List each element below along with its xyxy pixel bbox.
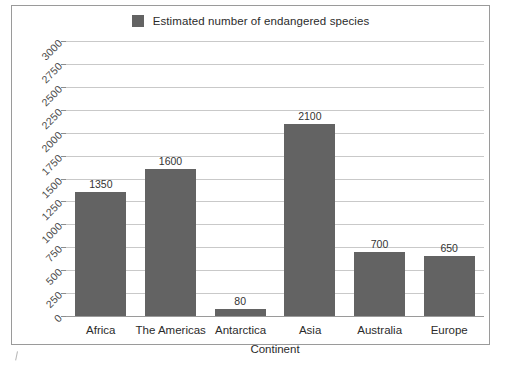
x-axis-category-label: The Americas <box>136 324 206 336</box>
bar-slot: 2100 <box>275 41 345 316</box>
bar-value-label: 2100 <box>298 110 321 122</box>
legend-swatch-icon <box>132 15 144 27</box>
bar[interactable]: 700 <box>354 252 405 316</box>
bar-value-label: 1600 <box>159 155 182 167</box>
y-axis-tick-label: 3000 <box>39 37 65 63</box>
x-axis-category-label: Antarctica <box>206 324 276 336</box>
x-axis-category-label: Europe <box>414 324 484 336</box>
x-axis-category-label: Africa <box>66 324 136 336</box>
bar-slot: 1350 <box>66 41 136 316</box>
bar-slot: 700 <box>345 41 415 316</box>
y-axis-tick-label: 2750 <box>39 60 65 86</box>
chart-legend: Estimated number of endangered species <box>12 15 489 27</box>
y-axis-tick-label: 2500 <box>39 83 65 109</box>
legend-label: Estimated number of endangered species <box>153 15 370 27</box>
bar[interactable]: 80 <box>215 309 266 316</box>
bar-series: 13501600802100700650 <box>66 41 484 316</box>
axis-baseline <box>66 316 484 317</box>
bar[interactable]: 2100 <box>284 124 335 317</box>
bar-value-label: 1350 <box>89 178 112 190</box>
bar-value-label: 650 <box>440 242 458 254</box>
plot-area: 3000275025002250200017501500125010007505… <box>66 41 484 316</box>
bar-value-label: 700 <box>371 238 389 250</box>
y-axis-tick-label: 500 <box>43 266 64 287</box>
bar[interactable]: 1600 <box>145 169 196 316</box>
bar-slot: 80 <box>205 41 275 316</box>
bar[interactable]: 1350 <box>75 192 126 316</box>
scan-artifact <box>15 351 24 361</box>
bar-slot: 650 <box>414 41 484 316</box>
x-axis-title: Continent <box>66 343 484 355</box>
y-axis-tick-label: 1250 <box>39 197 65 223</box>
bar-slot: 1600 <box>136 41 206 316</box>
x-axis-category-label: Australia <box>345 324 415 336</box>
y-axis-tick-label: 2000 <box>39 128 65 154</box>
chart-frame: Estimated number of endangered species 3… <box>11 5 490 345</box>
y-axis-tick-label: 1000 <box>39 220 65 246</box>
bar-value-label: 80 <box>234 295 246 307</box>
y-axis-tick-label: 250 <box>43 289 64 310</box>
y-axis-tick-label: 0 <box>51 312 64 325</box>
x-axis-category-label: Asia <box>275 324 345 336</box>
y-axis-tick-label: 2250 <box>39 106 65 132</box>
y-axis-tick-label: 750 <box>43 243 64 264</box>
x-axis-category-labels: AfricaThe AmericasAntarcticaAsiaAustrali… <box>66 324 484 336</box>
bar[interactable]: 650 <box>424 256 475 316</box>
